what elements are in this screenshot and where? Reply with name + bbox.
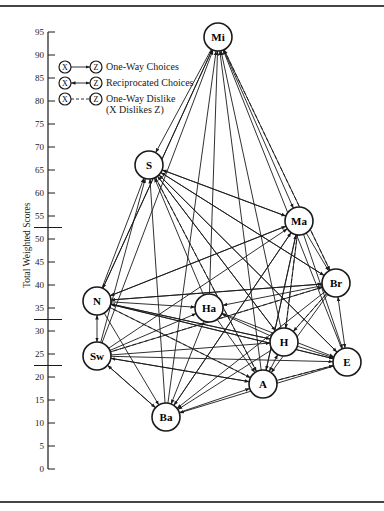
edge-one-way [221,51,281,329]
y-tick-label: 25 [24,349,44,359]
edge-one-way [224,50,294,208]
edge-one-way [111,356,333,361]
edge-one-way [286,235,298,328]
node-label: Ha [202,302,217,314]
legend-label: One-Way Choices [106,61,179,72]
legend-item-dislike: XZ [59,93,102,105]
y-tick-label: 70 [24,142,44,152]
edge-one-way [111,304,271,339]
edge-one-way [102,178,144,288]
node-s: S [135,151,163,179]
node-n: N [83,287,111,315]
legend-label: One-Way Dislike [106,93,175,104]
edge-one-way [150,179,165,403]
y-tick-label: 30 [24,326,44,336]
node-br: Br [322,269,350,297]
svg-text:X: X [62,95,68,104]
svg-text:Z: Z [94,79,99,88]
node-label: Ma [291,215,307,227]
y-axis-label: Total Weighted Scores [22,203,32,288]
edge-one-way [179,389,249,413]
edge-one-way [155,177,256,371]
y-tick-label: 60 [24,188,44,198]
sociogram-figure: MiSMaBrNHaHESwABa XZXZXZ 959085807570656… [0,0,384,511]
y-tick-label: 90 [24,50,44,60]
node-sw: Sw [83,342,111,370]
y-tick-label: 10 [24,418,44,428]
node-label: Mi [211,31,224,43]
node-h: H [270,328,298,356]
legend: XZXZXZ [59,61,102,105]
y-tick-label: 15 [24,395,44,405]
svg-text:X: X [62,79,68,88]
node-a: A [249,370,277,398]
node-label: S [146,159,152,171]
y-tick-label: 20 [24,372,44,382]
node-ma: Ma [285,207,313,235]
edge-one-way [111,302,195,307]
y-tick-label: 95 [24,27,44,37]
node-label: A [259,378,267,390]
node-label: Ba [160,411,173,423]
edge-reciprocated [338,297,345,348]
y-tick-label: 80 [24,96,44,106]
edge-one-way [217,319,255,372]
y-tick-label: 85 [24,73,44,83]
y-tick-label: 35 [24,303,44,313]
node-ba: Ba [152,403,180,431]
node-mi: Mi [204,23,232,51]
legend-item-one-way: XZ [59,61,102,73]
legend-sublabel: (X Dislikes Z) [106,104,164,115]
node-label: Br [330,277,342,289]
node-ha: Ha [195,294,223,322]
node-label: E [343,356,350,368]
legend-label: Reciprocated Choices [106,77,193,88]
legend-item-reciprocated: XZ [59,77,102,89]
svg-text:Z: Z [94,95,99,104]
edge-one-way [162,170,286,216]
node-label: N [93,295,101,307]
y-tick-label: 65 [24,165,44,175]
y-tick-label: 75 [24,119,44,129]
node-label: H [280,336,289,348]
svg-text:X: X [62,63,68,72]
node-e: E [333,348,361,376]
edge-one-way [110,226,286,296]
y-tick-label: 0 [24,464,44,474]
edge-one-way [297,346,333,358]
svg-text:Z: Z [94,63,99,72]
edge-one-way [111,358,249,381]
node-label: Sw [90,350,104,362]
y-tick-label: 5 [24,441,44,451]
